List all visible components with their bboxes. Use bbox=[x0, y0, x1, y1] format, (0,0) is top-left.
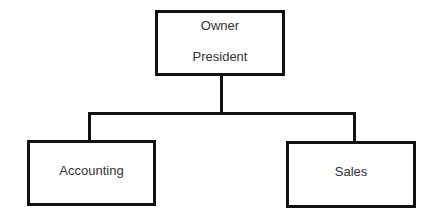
connector-accounting-down bbox=[88, 112, 91, 142]
president-label: President bbox=[158, 49, 282, 64]
accounting-box: Accounting bbox=[27, 140, 156, 206]
accounting-label: Accounting bbox=[30, 163, 153, 178]
connector-horizontal bbox=[88, 112, 356, 115]
connector-sales-down bbox=[353, 112, 356, 143]
connector-root-down bbox=[220, 75, 223, 115]
owner-label: Owner bbox=[158, 18, 282, 33]
sales-box: Sales bbox=[286, 141, 416, 208]
owner-president-box: Owner President bbox=[155, 10, 285, 76]
sales-label: Sales bbox=[289, 164, 413, 179]
